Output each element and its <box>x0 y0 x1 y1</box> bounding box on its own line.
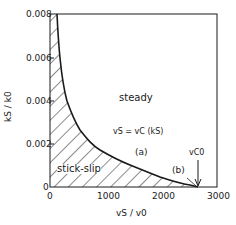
xtick-0: 0 <box>47 191 53 201</box>
xtick-3000: 3000 <box>207 191 230 201</box>
ytick-0.004: 0.004 <box>26 96 52 106</box>
xtick-2000: 2000 <box>152 191 175 201</box>
curve-equation-label: vS = vC (kS) <box>113 127 163 137</box>
xtick-1000: 1000 <box>97 191 120 201</box>
region-label-steady: steady <box>119 93 153 103</box>
marker-b: (b) <box>172 165 185 175</box>
marker-a: (a) <box>135 147 148 157</box>
region-label-stick-slip: stick-slip <box>57 164 101 174</box>
ytick-0.002: 0.002 <box>26 139 52 149</box>
y-axis-label: kS / k0 <box>3 91 13 122</box>
ytick-0.008: 0.008 <box>26 9 52 19</box>
vc0-label: vC0 <box>189 148 204 158</box>
ytick-0.006: 0.006 <box>26 53 52 63</box>
x-axis-label: vS / v0 <box>116 208 147 218</box>
